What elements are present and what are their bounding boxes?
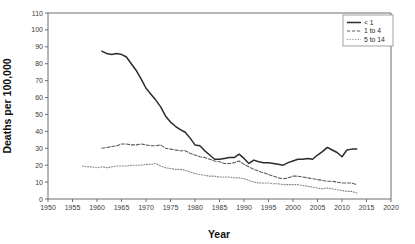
x-tick-label: 2010 bbox=[334, 204, 350, 211]
y-tick-label: 60 bbox=[35, 94, 43, 101]
legend-label-1: 1 to 4 bbox=[364, 27, 381, 34]
x-tick-label: 1965 bbox=[114, 204, 130, 211]
y-tick-label: 100 bbox=[31, 26, 43, 33]
x-tick-label: 2015 bbox=[359, 204, 375, 211]
y-tick-label: 110 bbox=[32, 10, 43, 17]
legend-label-0: < 1 bbox=[364, 19, 374, 26]
series-line-1 bbox=[102, 144, 357, 185]
series-line-2 bbox=[82, 163, 356, 193]
axes bbox=[48, 13, 391, 199]
x-tick-label: 2005 bbox=[310, 204, 326, 211]
chart-legend: < 11 to 45 to 14 bbox=[343, 15, 393, 46]
y-tick-label: 10 bbox=[35, 179, 43, 186]
x-tick-label: 1985 bbox=[212, 204, 228, 211]
y-tick-label: 80 bbox=[35, 60, 43, 67]
y-tick-label: 40 bbox=[35, 128, 43, 135]
x-tick-label: 1960 bbox=[89, 204, 105, 211]
x-tick-label: 1980 bbox=[187, 204, 203, 211]
legend-label-2: 5 to 14 bbox=[364, 36, 385, 43]
y-tick-label: 70 bbox=[35, 77, 43, 84]
y-tick-label: 50 bbox=[35, 111, 43, 118]
chart-page: 1950195519601965197019751980198519901995… bbox=[0, 0, 415, 244]
x-axis-ticks: 1950195519601965197019751980198519901995… bbox=[40, 199, 399, 211]
y-tick-label: 0 bbox=[39, 196, 43, 203]
y-tick-label: 20 bbox=[35, 162, 43, 169]
x-tick-label: 1970 bbox=[138, 204, 154, 211]
y-axis-ticks: 0102030405060708090100110 bbox=[31, 10, 48, 203]
y-axis-title: Deaths per 100,000 bbox=[1, 58, 13, 153]
x-tick-label: 1950 bbox=[40, 204, 56, 211]
series-line-0 bbox=[102, 51, 357, 165]
x-tick-label: 1995 bbox=[261, 204, 277, 211]
x-axis-title: Year bbox=[208, 228, 230, 240]
x-tick-label: 2020 bbox=[383, 204, 399, 211]
x-tick-label: 2000 bbox=[285, 204, 301, 211]
x-tick-label: 1975 bbox=[163, 204, 179, 211]
x-tick-label: 1955 bbox=[65, 204, 81, 211]
y-tick-label: 90 bbox=[35, 43, 43, 50]
line-chart: 1950195519601965197019751980198519901995… bbox=[0, 0, 415, 244]
x-tick-label: 1990 bbox=[236, 204, 252, 211]
y-tick-label: 30 bbox=[35, 145, 43, 152]
series-lines bbox=[82, 51, 356, 193]
